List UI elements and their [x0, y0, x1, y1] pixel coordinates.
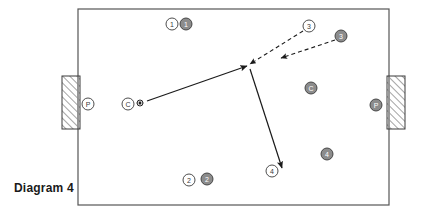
player-filled-4: 4: [321, 148, 333, 160]
player-filled-2-label: 2: [205, 176, 209, 183]
diagram-caption: Diagram 4: [14, 181, 74, 195]
player-open-3-label: 3: [307, 23, 311, 30]
player-filled-1-label: 1: [184, 21, 188, 28]
player-open-2: 2: [183, 174, 195, 186]
player-open-4: 4: [266, 165, 278, 177]
player-open-1: 1: [166, 18, 178, 30]
player-open-p-left: P: [82, 98, 94, 110]
player-filled-c-label: C: [308, 85, 313, 92]
player-open-4-label: 4: [270, 168, 274, 175]
ball: [137, 100, 143, 106]
player-filled-c: C: [305, 82, 317, 94]
player-open-p-left-label: P: [86, 101, 91, 108]
player-filled-p-right: P: [370, 99, 382, 111]
ball-icon: [137, 100, 143, 106]
player-open-2-label: 2: [187, 177, 191, 184]
player-filled-4-label: 4: [325, 151, 329, 158]
player-open-c-label: C: [125, 101, 130, 108]
player-open-1-label: 1: [170, 21, 174, 28]
player-filled-p-right-label: P: [374, 102, 379, 109]
player-filled-1: 1: [180, 18, 192, 30]
goal-right: [387, 76, 405, 129]
goal-left: [62, 76, 80, 129]
diagram-page: 1133PPCC2244 Diagram 4: [0, 0, 422, 219]
player-open-3: 3: [303, 20, 315, 32]
player-filled-3-label: 3: [339, 33, 343, 40]
player-filled-3: 3: [335, 30, 347, 42]
player-filled-2: 2: [201, 173, 213, 185]
player-open-c: C: [122, 98, 134, 110]
